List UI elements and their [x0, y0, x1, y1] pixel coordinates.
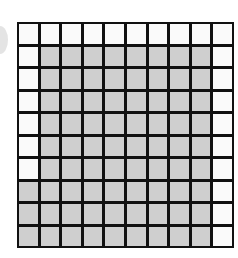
unshaded-cell: [213, 159, 232, 179]
unshaded-cell: [213, 24, 232, 44]
shaded-cell: [19, 227, 38, 247]
shaded-cell: [127, 92, 146, 112]
edge-shape: [0, 26, 8, 54]
unshaded-cell: [19, 159, 38, 179]
unshaded-cell: [192, 24, 211, 44]
shaded-cell: [19, 204, 38, 224]
shaded-cell: [41, 182, 60, 202]
shaded-cell: [127, 137, 146, 157]
shaded-cell: [149, 47, 168, 67]
shaded-cell: [170, 159, 189, 179]
shaded-cell: [149, 159, 168, 179]
shaded-cell: [62, 137, 81, 157]
shaded-cell: [149, 182, 168, 202]
shaded-cell: [127, 227, 146, 247]
shaded-cell: [149, 227, 168, 247]
shaded-cell: [19, 182, 38, 202]
shaded-cell: [84, 159, 103, 179]
shaded-cell: [170, 182, 189, 202]
shaded-cell: [105, 137, 124, 157]
shaded-cell: [84, 69, 103, 89]
shaded-cell: [62, 204, 81, 224]
shaded-cell: [149, 114, 168, 134]
shaded-cell: [170, 137, 189, 157]
shaded-cell: [127, 159, 146, 179]
shaded-cell: [192, 182, 211, 202]
shaded-cell: [41, 47, 60, 67]
shaded-cell: [127, 204, 146, 224]
shaded-cell: [105, 204, 124, 224]
shaded-cell: [62, 182, 81, 202]
shaded-cell: [41, 92, 60, 112]
shaded-cell: [41, 159, 60, 179]
shaded-cell: [192, 137, 211, 157]
unshaded-cell: [170, 24, 189, 44]
shaded-cell: [84, 227, 103, 247]
shaded-cell: [41, 204, 60, 224]
shaded-cell: [170, 114, 189, 134]
shaded-cell: [149, 204, 168, 224]
shaded-cell: [62, 92, 81, 112]
shaded-cell: [149, 137, 168, 157]
shaded-cell: [192, 92, 211, 112]
unshaded-cell: [19, 24, 38, 44]
shaded-cell: [192, 159, 211, 179]
shaded-cell: [41, 69, 60, 89]
shaded-cell: [84, 182, 103, 202]
unshaded-cell: [213, 69, 232, 89]
shaded-cell: [41, 114, 60, 134]
shaded-cell: [84, 47, 103, 67]
shaded-cell: [127, 47, 146, 67]
unshaded-cell: [213, 137, 232, 157]
shaded-cell: [105, 92, 124, 112]
shaded-cell: [84, 204, 103, 224]
shaded-cell: [62, 47, 81, 67]
shaded-cell: [170, 92, 189, 112]
unshaded-cell: [213, 47, 232, 67]
shaded-cell: [105, 114, 124, 134]
unshaded-cell: [84, 24, 103, 44]
shaded-cell: [105, 182, 124, 202]
shaded-cell: [170, 227, 189, 247]
shaded-cell: [170, 69, 189, 89]
unshaded-cell: [41, 24, 60, 44]
shaded-cell: [62, 69, 81, 89]
unshaded-cell: [213, 92, 232, 112]
shaded-cell: [84, 114, 103, 134]
unshaded-cell: [19, 47, 38, 67]
unshaded-cell: [19, 114, 38, 134]
unshaded-cell: [19, 92, 38, 112]
shaded-cell: [105, 159, 124, 179]
shaded-cell: [105, 69, 124, 89]
shaded-cell: [105, 47, 124, 67]
shaded-cell: [192, 227, 211, 247]
shaded-cell: [84, 92, 103, 112]
shaded-cell: [149, 92, 168, 112]
unshaded-cell: [213, 204, 232, 224]
unshaded-cell: [127, 24, 146, 44]
shaded-cell: [41, 227, 60, 247]
shaded-cell: [62, 159, 81, 179]
shaded-cell: [127, 69, 146, 89]
shaded-cell: [62, 114, 81, 134]
shaded-cell: [127, 182, 146, 202]
unshaded-cell: [213, 227, 232, 247]
shaded-cell: [105, 227, 124, 247]
unshaded-cell: [62, 24, 81, 44]
unshaded-cell: [105, 24, 124, 44]
unshaded-cell: [19, 137, 38, 157]
shaded-cell: [192, 69, 211, 89]
shaded-cell: [170, 204, 189, 224]
unshaded-cell: [149, 24, 168, 44]
shaded-cell: [170, 47, 189, 67]
shaded-cell: [127, 114, 146, 134]
unshaded-cell: [213, 114, 232, 134]
shaded-cell: [62, 227, 81, 247]
shaded-cell: [192, 204, 211, 224]
shaded-cell: [149, 69, 168, 89]
unshaded-cell: [19, 69, 38, 89]
shaded-cell: [192, 47, 211, 67]
hundred-grid: [17, 22, 234, 248]
shaded-cell: [41, 137, 60, 157]
unshaded-cell: [213, 182, 232, 202]
